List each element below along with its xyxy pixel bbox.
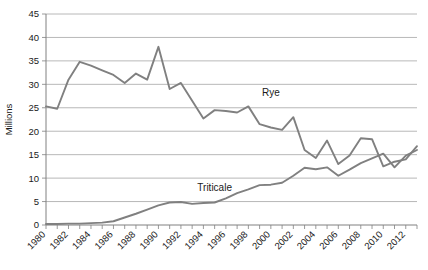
ytick-label: 15 [28,149,39,160]
xtick-label: 2006 [317,229,340,252]
xtick-label: 1980 [25,229,48,252]
ytick-label: 20 [28,126,39,137]
xtick-label: 1998 [227,229,250,252]
xtick-label: 1986 [92,229,115,252]
xtick-label: 1994 [182,229,205,252]
ytick-label: 30 [28,79,39,90]
chart-container: 0510152025303540451980198219841986198819… [0,0,428,270]
xtick-label: 2002 [272,229,295,252]
ytick-label: 10 [28,173,39,184]
line-chart: 0510152025303540451980198219841986198819… [0,0,428,270]
xtick-label: 2000 [250,229,273,252]
ytick-label: 40 [28,32,39,43]
xtick-label: 1996 [205,229,228,252]
series-line-rye [46,47,417,167]
series-label-rye: Rye [262,87,280,98]
y-axis-title: Millions [3,103,14,135]
series-label-triticale: Triticale [197,182,232,193]
xtick-label: 1992 [160,229,183,252]
xtick-label: 1982 [47,229,70,252]
xtick-label: 2008 [339,229,362,252]
ytick-label: 5 [34,196,39,207]
ytick-label: 25 [28,102,39,113]
xtick-label: 1984 [70,229,93,252]
xtick-label: 1990 [137,229,160,252]
ytick-label: 35 [28,55,39,66]
xtick-label: 2004 [295,229,318,252]
xtick-label: 2010 [362,229,385,252]
xtick-label: 2012 [384,229,407,252]
ytick-label: 45 [28,8,39,19]
xtick-label: 1988 [115,229,138,252]
